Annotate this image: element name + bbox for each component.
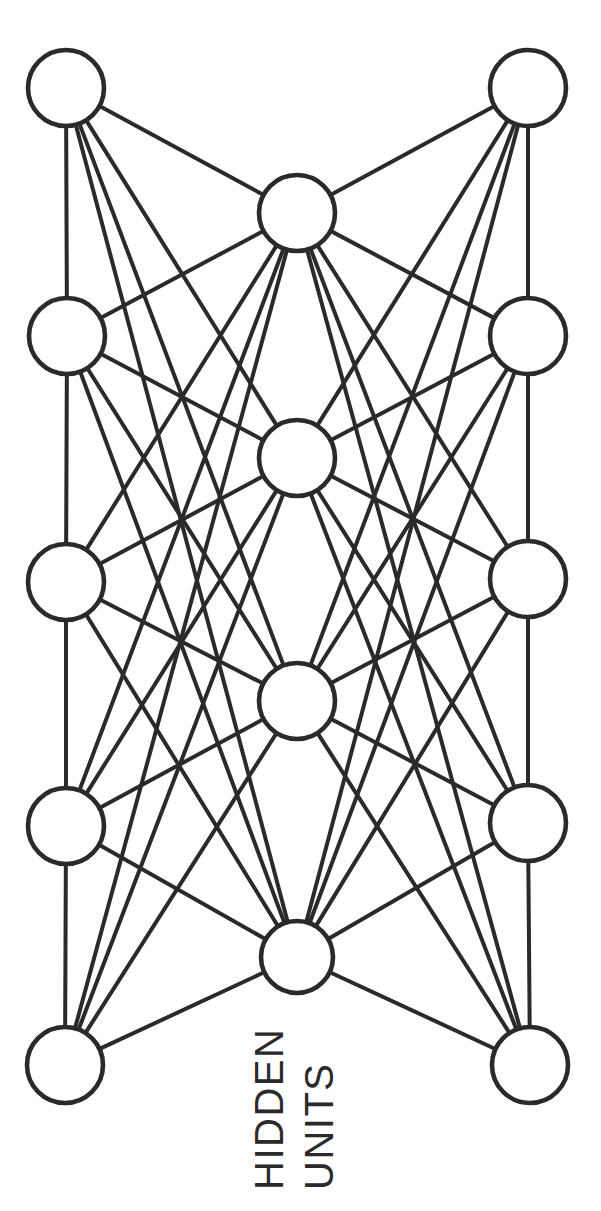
unit-node-l4 [28,788,104,864]
unit-node-h3 [259,663,335,739]
connection-edge [66,373,67,545]
unit-node-l2 [29,298,105,374]
hidden-units-caption-line-1: HIDDEN [247,1028,291,1190]
unit-node-h4 [261,921,333,993]
connection-edge [66,125,67,299]
unit-node-l5 [27,1027,103,1103]
unit-node-r5 [492,1027,568,1103]
unit-node-l3 [28,544,104,620]
unit-node-r3 [490,541,566,617]
unit-node-r4 [490,785,566,861]
unit-node-h1 [259,175,335,251]
unit-node-r1 [490,50,566,126]
unit-node-l1 [28,50,104,126]
connection-edge [65,863,66,1028]
hidden-units-caption-line-2: UNITS [297,1063,341,1191]
unit-node-r2 [490,298,566,374]
unit-node-h2 [259,420,335,496]
connection-edge [528,860,529,1028]
diagram-canvas: HIDDEN UNITS [0,0,601,1211]
neural-network-diagram: HIDDEN UNITS [0,0,601,1211]
